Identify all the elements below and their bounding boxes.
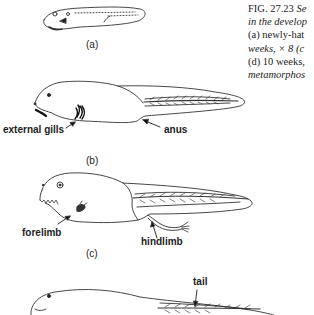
stage-label-c: (c) (86, 248, 98, 259)
caption-line-4: weeks, × 8 (c (248, 43, 304, 54)
label-hindlimb: hindlimb (141, 236, 183, 247)
label-external-gills: external gills (3, 124, 64, 135)
caption-line-2: in the develop (248, 16, 307, 27)
figure-caption: FIG. 27.23 Se in the develop (a) newly-h… (248, 2, 314, 81)
label-forelimb: forelimb (22, 227, 61, 238)
label-tail: tail (193, 276, 207, 287)
figure-number: FIG. 27.23 (248, 3, 294, 14)
caption-line-1: Se (296, 3, 306, 14)
caption-line-3: (a) newly-hat (248, 29, 304, 40)
stage-label-a: (a) (86, 39, 98, 50)
tadpole-a-drawing (44, 7, 145, 30)
tadpole-d-drawing (31, 290, 274, 315)
stage-label-b: (b) (86, 155, 98, 166)
tadpole-c-drawing (40, 173, 252, 238)
caption-line-6: metamorphos (248, 69, 305, 80)
tadpole-development-figure: (a) (b) (c) external gills anus forelimb… (0, 0, 314, 315)
tadpole-b-drawing (34, 81, 245, 128)
caption-line-5: (d) 10 weeks, (248, 56, 305, 67)
label-anus: anus (164, 124, 187, 135)
